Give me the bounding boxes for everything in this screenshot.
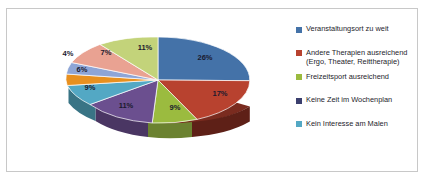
chart-plot-area: 26% 17% 9% 11% 9% 6% 4% 7% 11% Veranstal… bbox=[0, 0, 440, 185]
legend-label-1: Andere Therapien ausreichend (Ergo, Thea… bbox=[306, 48, 407, 67]
chart-legend: Veranstaltungsort zu weit Andere Therapi… bbox=[296, 24, 418, 128]
legend-item-4[interactable]: Kein Interesse am Malen bbox=[296, 119, 418, 129]
pie-chart-3d: 26% 17% 9% 11% 9% 6% 4% 7% 11% bbox=[22, 14, 282, 169]
slice-label-17: 17% bbox=[212, 89, 227, 98]
slice-label-6: 6% bbox=[77, 65, 88, 74]
legend-label-4: Kein Interesse am Malen bbox=[306, 119, 388, 129]
slice-label-9b: 9% bbox=[85, 83, 96, 92]
slice-label-4: 4% bbox=[63, 49, 74, 58]
legend-swatch-red bbox=[296, 50, 302, 56]
legend-label-2: Freizeitsport ausreichend bbox=[306, 72, 389, 82]
legend-item-3[interactable]: Keine Zeit im Wochenplan bbox=[296, 95, 418, 105]
legend-swatch-lightblue bbox=[296, 121, 302, 127]
legend-swatch-green bbox=[296, 74, 302, 80]
slice-label-9a: 9% bbox=[170, 103, 181, 112]
legend-item-2[interactable]: Freizeitsport ausreichend bbox=[296, 72, 418, 82]
legend-item-1[interactable]: Andere Therapien ausreichend (Ergo, Thea… bbox=[296, 48, 418, 67]
legend-swatch-blue bbox=[296, 27, 302, 33]
legend-swatch-darkblue bbox=[296, 98, 302, 104]
slice-label-11a: 11% bbox=[119, 101, 134, 110]
slice-label-7: 7% bbox=[101, 48, 112, 57]
slice-label-26: 26% bbox=[197, 53, 212, 62]
legend-label-0: Veranstaltungsort zu weit bbox=[306, 24, 389, 34]
legend-item-0[interactable]: Veranstaltungsort zu weit bbox=[296, 24, 418, 34]
slice-label-11b: 11% bbox=[138, 43, 153, 52]
side-wall-green-skirt bbox=[148, 122, 192, 138]
legend-label-3: Keine Zeit im Wochenplan bbox=[306, 95, 392, 105]
